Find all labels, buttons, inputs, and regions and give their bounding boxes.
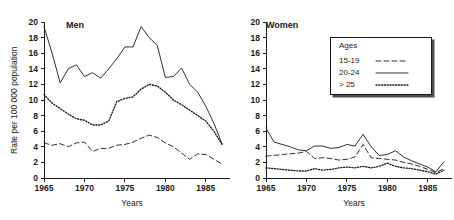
x-tick-label: 1970 [70, 184, 98, 193]
x-tick-label: 1970 [292, 184, 320, 193]
y-tick-label: 20 [232, 18, 260, 27]
legend-entry-label: 20-24 [339, 69, 371, 77]
panel-men: Men Rate per 100 000 population Years 02… [0, 0, 232, 220]
figure-two-panel-line-chart: Men Rate per 100 000 population Years 02… [0, 0, 454, 220]
x-tick-label: 1985 [414, 184, 442, 193]
y-tick-label: 10 [232, 96, 260, 105]
legend-entry-label: > 25 [339, 81, 371, 89]
panel-women: Women Years Ages 15-1920-24> 25 02468101… [222, 0, 454, 220]
y-tick-label: 8 [10, 112, 38, 121]
y-tick-label: 16 [10, 49, 38, 58]
legend-entry-label: 15-19 [339, 57, 371, 65]
dotted-line-icon [375, 81, 409, 89]
y-tick-label: 8 [232, 112, 260, 121]
series-line-15-19 [44, 135, 222, 164]
x-tick-label: 1985 [192, 184, 220, 193]
solid-line-icon [375, 69, 409, 77]
series-line-25 [266, 163, 444, 174]
series-line-25 [44, 84, 222, 144]
x-tick-label: 1965 [252, 184, 280, 193]
y-tick-label: 2 [10, 158, 38, 167]
y-tick-label: 6 [232, 127, 260, 136]
legend-title: Ages [339, 42, 431, 50]
y-tick-label: 14 [232, 65, 260, 74]
y-tick-label: 18 [10, 34, 38, 43]
dashed-line-icon [375, 57, 409, 65]
x-tick-label: 1975 [111, 184, 139, 193]
legend-entry: 20-24 [339, 67, 431, 79]
y-tick-label: 4 [232, 143, 260, 152]
y-tick-label: 16 [232, 49, 260, 58]
x-tick-label: 1965 [30, 184, 58, 193]
x-tick-label: 1975 [333, 184, 361, 193]
y-tick-label: 2 [232, 158, 260, 167]
x-tick-label: 1980 [373, 184, 401, 193]
legend-entry: > 25 [339, 79, 431, 91]
y-tick-label: 12 [10, 80, 38, 89]
y-tick-label: 14 [10, 65, 38, 74]
series-line-20-24 [44, 27, 222, 144]
legend-entry: 15-19 [339, 55, 431, 67]
legend: Ages 15-1920-24> 25 [330, 37, 432, 95]
y-tick-label: 20 [10, 18, 38, 27]
y-tick-label: 0 [232, 174, 260, 183]
y-tick-label: 18 [232, 34, 260, 43]
y-tick-label: 10 [10, 96, 38, 105]
y-tick-label: 12 [232, 80, 260, 89]
x-tick-label: 1980 [151, 184, 179, 193]
y-tick-label: 4 [10, 143, 38, 152]
y-tick-label: 0 [10, 174, 38, 183]
y-tick-label: 6 [10, 127, 38, 136]
legend-entry-list: 15-1920-24> 25 [339, 55, 431, 91]
